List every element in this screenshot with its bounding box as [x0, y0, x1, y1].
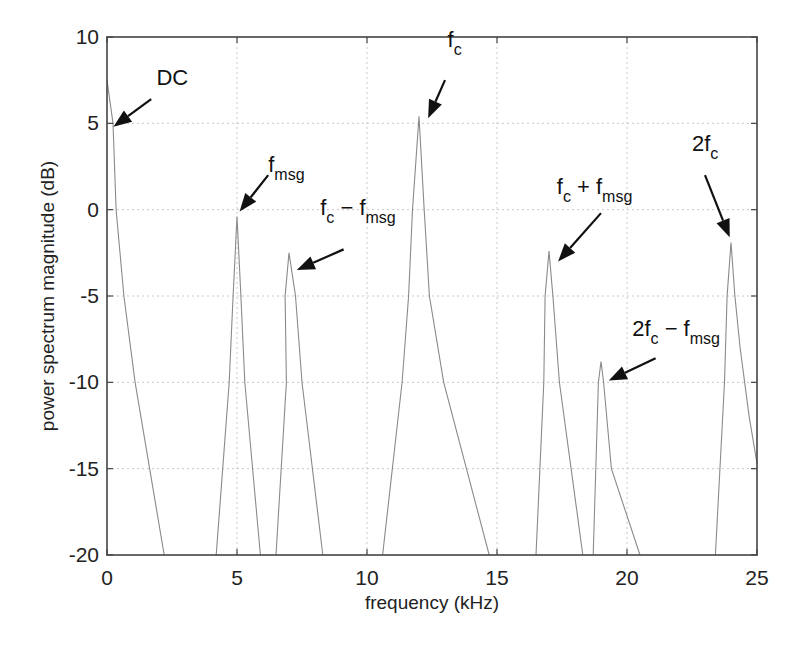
arrow-line — [625, 358, 656, 373]
x-tick-label: 20 — [615, 566, 638, 589]
spectrum-peak-2f-c — [715, 243, 757, 556]
annotation-label: fc — [448, 27, 462, 58]
spectrum-peak-2f-c-f-msg — [593, 362, 640, 555]
annotation-fc+fmsg: fc + fmsg — [557, 174, 633, 261]
arrow-line — [128, 99, 151, 116]
x-tick-labels: 0510152025 — [101, 566, 769, 589]
power-spectrum-chart: 0510152025 1050-5-10-15-20 frequency (kH… — [0, 0, 795, 653]
annotation-2fc: 2fc — [692, 131, 730, 237]
arrowhead-icon — [297, 256, 316, 270]
arrowhead-icon — [717, 218, 730, 237]
y-tick-label: 0 — [87, 198, 99, 221]
y-tick-label: 10 — [76, 25, 99, 48]
x-tick-label: 15 — [485, 566, 508, 589]
spectrum-peak-f-c-f-msg — [276, 253, 323, 555]
peak-annotations: DCfmsgfc − fmsgfcfc + fmsg2fc − fmsg2fc — [114, 27, 730, 380]
y-tick-label: -15 — [69, 457, 99, 480]
arrow-line — [251, 175, 268, 197]
arrowhead-icon — [240, 193, 257, 211]
annotation-label: fmsg — [268, 152, 304, 183]
x-tick-label: 10 — [355, 566, 378, 589]
annotation-label: 2fc − fmsg — [632, 316, 720, 347]
y-tick-label: 5 — [87, 111, 99, 134]
y-axis-label: power spectrum magnitude (dB) — [37, 161, 58, 431]
arrow-line — [435, 80, 445, 102]
annotation-fc-fmsg: fc − fmsg — [297, 195, 396, 270]
y-tick-label: -20 — [69, 543, 99, 566]
grid-lines — [107, 37, 757, 555]
annotation-label: fc + fmsg — [557, 174, 633, 205]
arrowhead-icon — [114, 111, 133, 127]
x-axis-label: frequency (kHz) — [365, 592, 499, 613]
arrow-line — [313, 249, 343, 262]
y-tick-labels: 1050-5-10-15-20 — [69, 25, 99, 566]
spectrum-peak-dc — [107, 80, 164, 555]
y-tick-label: -10 — [69, 370, 99, 393]
spectrum-peak-f-c-f-msg — [536, 251, 583, 555]
x-tick-label: 0 — [101, 566, 113, 589]
annotation-fc: fc — [428, 27, 462, 118]
arrowhead-icon — [609, 367, 628, 381]
spectrum-peak-f-msg — [216, 217, 260, 555]
annotation-label: DC — [156, 65, 188, 90]
x-tick-label: 25 — [745, 566, 768, 589]
y-tick-label: -5 — [80, 284, 99, 307]
spectrum-peak-f-c — [383, 116, 490, 555]
arrowhead-icon — [428, 99, 442, 118]
annotation-label: 2fc — [692, 131, 718, 162]
annotation-label: fc − fmsg — [320, 195, 396, 226]
arrow-line — [705, 175, 723, 220]
annotation-2fc-fmsg: 2fc − fmsg — [609, 316, 720, 381]
annotation-dc: DC — [114, 65, 189, 126]
annotation-fmsg: fmsg — [240, 152, 305, 212]
x-tick-label: 5 — [231, 566, 243, 589]
arrow-line — [570, 213, 601, 248]
